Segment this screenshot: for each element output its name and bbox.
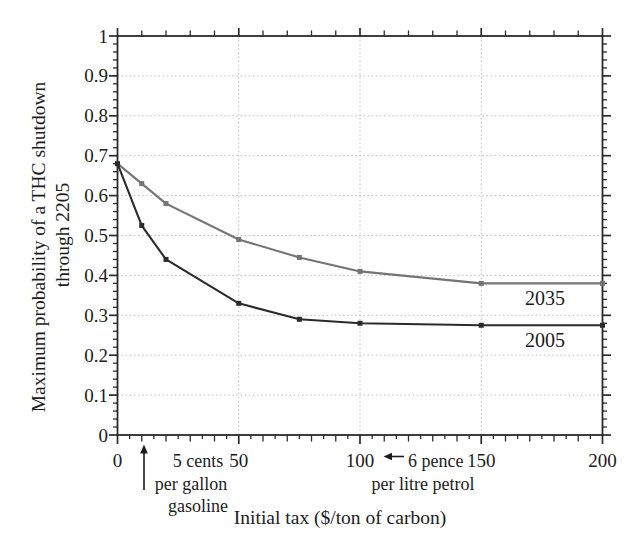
series-2005-marker — [139, 223, 144, 228]
series-2005-marker — [600, 323, 605, 328]
series-2035-marker — [600, 281, 605, 286]
y-tick-label: 0 — [99, 425, 109, 446]
thc-shutdown-probability-chart: 00.10.20.30.40.50.60.70.80.9105010015020… — [0, 0, 639, 545]
x-tick-label: 200 — [588, 450, 617, 471]
annotation-petrol-equivalent: 6 pence per litre petrol — [372, 451, 475, 494]
series-2035-line — [118, 164, 603, 284]
x-tick-label: 50 — [229, 450, 248, 471]
series-label-2035: 2035 — [525, 287, 565, 309]
series-2005-marker — [479, 323, 484, 328]
series-2005-marker — [236, 301, 241, 306]
y-tick-label: 0.3 — [84, 305, 108, 326]
up-arrow-head-icon — [140, 445, 148, 454]
y-tick-label: 0.8 — [84, 105, 108, 126]
series-2035-marker — [139, 181, 144, 186]
figure: 00.10.20.30.40.50.60.70.80.9105010015020… — [0, 0, 639, 545]
y-tick-label: 0.6 — [84, 185, 108, 206]
series-2005-marker — [164, 257, 169, 262]
annotation-gasoline-equivalent: 5 cents per gallon gasoline — [140, 445, 228, 517]
y-tick-label: 0.1 — [84, 385, 108, 406]
y-tick-label: 0.7 — [84, 145, 108, 166]
y-tick-label: 1 — [99, 26, 109, 47]
annotation-petrol-line2: per litre petrol — [372, 474, 475, 494]
series-2005-marker — [297, 317, 302, 322]
series-2035-marker — [164, 201, 169, 206]
x-axis-title: Initial tax ($/ton of carbon) — [234, 507, 446, 529]
series-2035-marker — [479, 281, 484, 286]
x-tick-label: 100 — [346, 450, 375, 471]
annotation-gasoline-line3: gasoline — [168, 496, 228, 516]
series-2005-marker — [115, 161, 120, 166]
left-arrow-head-icon — [384, 453, 393, 460]
x-tick-label: 150 — [467, 450, 496, 471]
series-2035-marker — [236, 237, 241, 242]
series-label-2005: 2005 — [525, 329, 565, 351]
series-2035-marker — [297, 255, 302, 260]
x-tick-label: 0 — [113, 450, 123, 471]
y-tick-label: 0.2 — [84, 345, 108, 366]
annotation-petrol-line1: 6 pence — [408, 451, 463, 471]
annotation-gasoline-line2: per gallon — [155, 474, 227, 494]
series-2005-marker — [358, 321, 363, 326]
y-axis-title-line2: through 2205 — [52, 183, 73, 288]
y-tick-label: 0.5 — [84, 225, 108, 246]
series-2035-marker — [358, 269, 363, 274]
y-axis-title-line1: Maximum probability of a THC shutdown — [28, 81, 49, 412]
y-tick-label: 0.4 — [84, 265, 108, 286]
annotation-gasoline-line1: 5 cents — [173, 451, 223, 471]
chart-generated-layers: 00.10.20.30.40.50.60.70.80.9105010015020… — [84, 26, 617, 472]
y-tick-label: 0.9 — [84, 65, 108, 86]
